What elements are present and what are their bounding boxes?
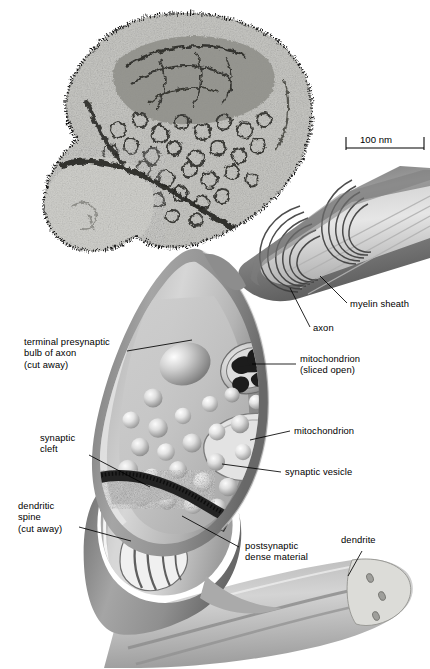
label-mitochondrion: mitochondrion bbox=[294, 425, 354, 436]
label-postsynaptic-dense-material: postsynaptic dense material bbox=[245, 540, 308, 563]
label-synaptic-cleft: synaptic cleft bbox=[40, 432, 75, 455]
label-axon: axon bbox=[313, 322, 334, 333]
synapse-figure-artwork bbox=[0, 0, 430, 669]
label-dendritic-spine: dendritic spine (cut away) bbox=[18, 500, 62, 534]
label-dendrite: dendrite bbox=[341, 534, 376, 545]
label-myelin-sheath: myelin sheath bbox=[350, 298, 409, 309]
electron-micrograph bbox=[30, 0, 330, 270]
scale-bar-label: 100 nm bbox=[360, 134, 392, 145]
label-synaptic-vesicle: synaptic vesicle bbox=[285, 466, 352, 477]
label-mitochondrion-sliced-open: mitochondrion (sliced open) bbox=[300, 353, 360, 376]
figure-canvas: 100 nm terminal presynaptic bulb of axon… bbox=[0, 0, 430, 669]
label-terminal-presynaptic-bulb: terminal presynaptic bulb of axon (cut a… bbox=[24, 336, 110, 370]
